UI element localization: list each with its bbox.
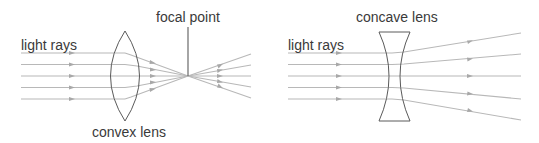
concave-diverging-arrows bbox=[467, 40, 473, 112]
concave-incoming-arrows bbox=[336, 51, 342, 101]
convex-diverging-arrows bbox=[217, 64, 223, 89]
convex-refracted-rays bbox=[125, 53, 188, 99]
concave-diverging-rays bbox=[392, 33, 521, 120]
lens-diagram: light rays focal point convex lens light… bbox=[0, 0, 539, 143]
convex-converging-arrows bbox=[150, 60, 157, 92]
focal-point-label: focal point bbox=[156, 10, 220, 24]
concave-lens-label: concave lens bbox=[356, 10, 438, 24]
convex-lens-label: convex lens bbox=[92, 125, 166, 139]
concave-light-rays-label: light rays bbox=[288, 38, 344, 52]
convex-incoming-arrows bbox=[69, 51, 75, 101]
convex-light-rays-label: light rays bbox=[21, 38, 77, 52]
diagram-graphics bbox=[0, 0, 539, 143]
